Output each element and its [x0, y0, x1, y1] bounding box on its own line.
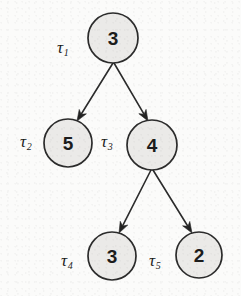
tree-node-n5[interactable]: 2: [176, 232, 222, 278]
tau-subscript-n5: 5: [156, 260, 161, 271]
tree-node-n4[interactable]: 3: [88, 232, 136, 280]
tree-node-n3[interactable]: 4: [127, 120, 177, 170]
node-value-n1: 3: [108, 28, 119, 49]
tau-label-n4: τ4: [61, 252, 73, 269]
tau-symbol-n4: τ: [61, 251, 67, 270]
tau-symbol-n1: τ: [57, 38, 63, 57]
tree-edge-n1-n2: [81, 63, 113, 114]
tau-subscript-n4: 4: [68, 260, 73, 271]
tau-subscript-n1: 1: [64, 47, 69, 58]
node-layer: 35432: [44, 13, 222, 280]
tau-label-n1: τ1: [57, 39, 69, 56]
node-value-n4: 3: [107, 246, 118, 267]
tau-symbol-n5: τ: [149, 251, 155, 270]
tree-node-n2[interactable]: 5: [44, 119, 92, 167]
tau-subscript-n2: 2: [27, 141, 32, 152]
tree-edge-n1-n3: [114, 63, 144, 114]
arrowhead-n1-n3: [139, 109, 148, 121]
tree-edge-n3-n5: [153, 170, 188, 226]
arrowhead-n1-n2: [77, 109, 86, 121]
tau-label-n2: τ2: [20, 133, 32, 150]
tau-symbol-n3: τ: [101, 132, 107, 151]
tree-edge-n3-n4: [123, 170, 151, 225]
node-value-n3: 4: [147, 135, 158, 156]
tau-label-n3: τ3: [101, 133, 113, 150]
tau-label-n5: τ5: [149, 252, 161, 269]
tau-symbol-n2: τ: [20, 132, 26, 151]
tree-diagram-figure: 35432 τ1τ2τ3τ4τ5: [0, 0, 241, 296]
tau-subscript-n3: 3: [108, 141, 113, 152]
node-value-n2: 5: [63, 133, 74, 154]
tree-graph-canvas: 35432: [0, 0, 241, 296]
arrowhead-n3-n5: [183, 221, 192, 233]
node-value-n5: 2: [194, 245, 205, 266]
tree-node-n1[interactable]: 3: [88, 13, 138, 63]
